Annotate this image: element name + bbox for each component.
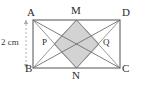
vertex-label-D: D: [122, 7, 130, 18]
dimension-arrow-top: [24, 20, 28, 24]
vertex-label-P: P: [42, 38, 47, 47]
vertex-label-C: C: [122, 63, 129, 74]
vertex-label-Q: Q: [103, 38, 110, 47]
vertex-label-N: N: [72, 70, 80, 81]
geometry-diagram-canvas: A M D P Q B N C 2 cm: [0, 0, 143, 86]
vertex-label-B: B: [25, 63, 32, 74]
vertex-label-A: A: [27, 7, 35, 18]
vertex-label-M: M: [71, 5, 81, 16]
dimension-label-2cm: 2 cm: [1, 38, 19, 47]
